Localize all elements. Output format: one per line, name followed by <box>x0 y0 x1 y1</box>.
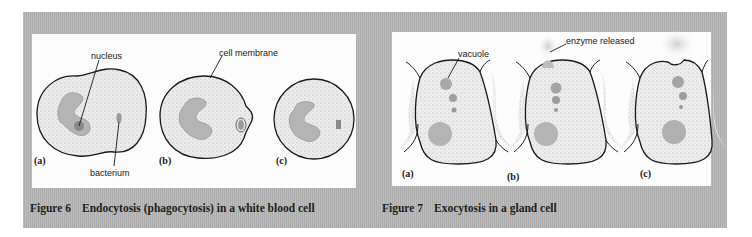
label-enzyme-released: enzyme released <box>566 36 635 46</box>
bacterium-icon <box>116 113 121 123</box>
enzyme-cloud <box>538 34 558 58</box>
stage-label-b: (b) <box>507 171 519 183</box>
label-cell-membrane: cell membrane <box>219 48 278 58</box>
label-bacterium: bacterium <box>90 168 130 178</box>
stage-label-c: (c) <box>640 168 651 180</box>
figure-7-caption: Figure 7Exocytosis in a gland cell <box>382 202 557 214</box>
figure-6-illustration: nucleus bacterium (a) cell membrane (b) <box>32 34 356 188</box>
gland-cell-a: vacuole (a) <box>396 49 516 180</box>
figure-6-title: Endocytosis (phagocytosis) in a white bl… <box>82 202 315 214</box>
white-blood-cell-a: nucleus bacterium (a) <box>34 51 146 178</box>
endocytosis-diagram: nucleus bacterium (a) cell membrane (b) <box>32 34 356 188</box>
figure-7-panel: vacuole (a) enzyme released <box>377 12 727 228</box>
vacuole-icon <box>440 78 452 90</box>
figure-7-title: Exocytosis in a gland cell <box>434 202 557 214</box>
figure-6-number: Figure 6 <box>30 202 82 214</box>
white-blood-cell-b: cell membrane (b) <box>159 48 278 167</box>
figure-6-caption: Figure 6Endocytosis (phagocytosis) in a … <box>30 202 315 214</box>
enzyme-cloud-dispersed <box>659 30 695 58</box>
exocytosis-diagram: vacuole (a) enzyme released <box>392 32 711 186</box>
gland-cell-b: enzyme released (b) <box>506 34 635 183</box>
figure-7-illustration: vacuole (a) enzyme released <box>392 32 711 186</box>
figure-6-panel: nucleus bacterium (a) cell membrane (b) <box>23 12 377 228</box>
figure-7-number: Figure 7 <box>382 202 434 214</box>
stage-label-a: (a) <box>34 155 46 167</box>
label-nucleus: nucleus <box>91 51 123 61</box>
gland-cell-c: (c) <box>616 30 728 180</box>
white-blood-cell-c: (c) <box>274 79 354 167</box>
engulfed-bacterium-icon <box>336 120 341 129</box>
label-vacuole: vacuole <box>458 49 489 59</box>
stage-label-a: (a) <box>402 168 414 180</box>
stage-label-c: (c) <box>276 155 287 167</box>
stage-label-b: (b) <box>159 155 171 167</box>
